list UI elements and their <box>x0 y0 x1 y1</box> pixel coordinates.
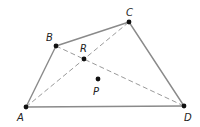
label-c: C <box>126 7 133 18</box>
point-d <box>182 104 187 109</box>
label-d: D <box>184 112 192 123</box>
quadrilateral-diagram: ABCDRP <box>0 0 200 127</box>
label-p: P <box>93 86 100 97</box>
point-a <box>24 105 29 110</box>
diagonal-AC <box>26 22 129 107</box>
point-p <box>96 77 101 82</box>
label-a: A <box>16 112 24 123</box>
edge-AB <box>26 46 56 107</box>
point-b <box>54 44 59 49</box>
edge-BC <box>56 22 129 46</box>
point-r <box>82 57 87 62</box>
edge-DA <box>26 106 184 107</box>
point-c <box>127 20 132 25</box>
label-r: R <box>80 43 87 54</box>
label-b: B <box>46 32 53 43</box>
edge-CD <box>129 22 184 106</box>
